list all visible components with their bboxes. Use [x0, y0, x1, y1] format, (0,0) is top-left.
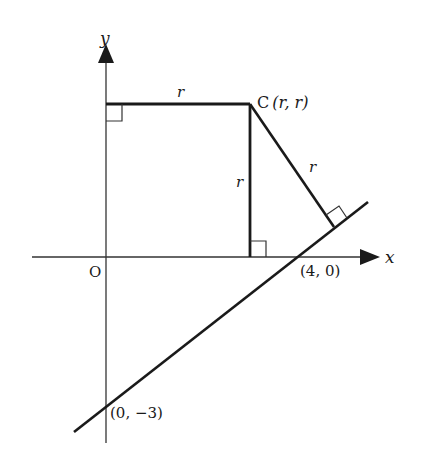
right-angle-marker-tangent [326, 206, 347, 218]
label-r-vertical: r [236, 173, 244, 191]
radius-to-tangent [250, 104, 334, 227]
y-axis-label: y [99, 28, 110, 48]
geometry-diagram: x y O r r r C(r, r) (4, 0) (0, −3) [0, 0, 431, 461]
x-intercept-label: (4, 0) [300, 262, 340, 280]
origin-label: O [89, 263, 101, 281]
tangent-line [74, 202, 368, 432]
centre-coords: (r, r) [272, 93, 308, 112]
right-angle-marker-x-axis [250, 241, 266, 257]
x-axis-arrow-icon [360, 249, 380, 265]
label-r-slant: r [309, 158, 317, 176]
right-angle-marker-y-axis [106, 104, 122, 121]
centre-label: C(r, r) [257, 93, 308, 112]
label-r-top: r [177, 83, 185, 101]
centre-name: C [257, 93, 269, 112]
y-intercept-label: (0, −3) [110, 404, 163, 422]
x-axis-label: x [385, 247, 395, 267]
